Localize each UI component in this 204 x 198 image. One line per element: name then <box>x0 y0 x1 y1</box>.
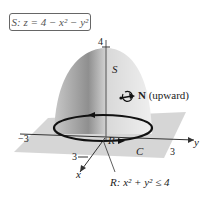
normal-label: N (upward) <box>138 89 189 101</box>
surface-label: S <box>112 63 118 75</box>
surface-equation-box: S: z = 4 − x² − y² <box>9 13 91 31</box>
y-pos-tick: 3 <box>170 146 175 157</box>
curve-label: C <box>136 145 143 157</box>
x-axis-label: x <box>76 168 81 180</box>
y-neg-tick: −3 <box>18 133 29 144</box>
y-axis-label: y <box>194 136 199 148</box>
region-definition: R: x² + y² ≤ 4 <box>110 176 169 188</box>
region-label: R <box>108 134 115 146</box>
z-tick-label: 4 <box>98 36 103 47</box>
x-tick: 3 <box>72 151 77 162</box>
